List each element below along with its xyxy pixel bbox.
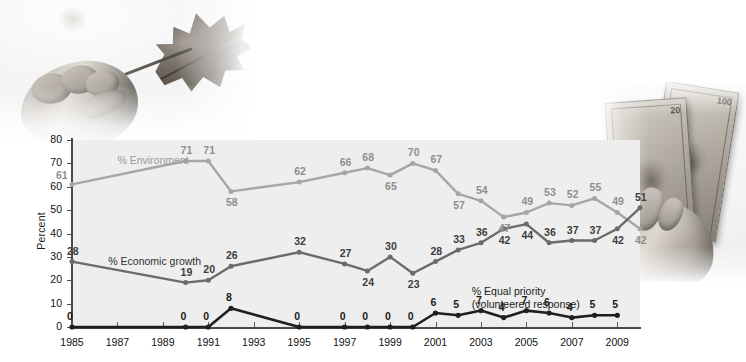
data-point-marker [592, 196, 597, 201]
data-point-label: 49 [521, 195, 533, 207]
data-point-marker [70, 182, 75, 187]
data-point-marker [479, 240, 484, 245]
data-point-label: 28 [431, 245, 443, 257]
data-point-label: 36 [544, 226, 556, 238]
data-point-label: 37 [567, 224, 579, 236]
data-point-marker [569, 203, 574, 208]
data-point-marker [524, 210, 529, 215]
data-point-marker [433, 259, 438, 264]
data-point-label: 0 [203, 310, 209, 322]
data-point-marker [410, 161, 415, 166]
data-point-marker [70, 259, 75, 264]
data-point-marker [547, 310, 552, 315]
data-point-label: 6 [431, 296, 437, 308]
data-point-label: 0 [340, 310, 346, 322]
data-point-marker [228, 306, 233, 311]
series-label-environment: % Environment [117, 154, 188, 166]
data-point-marker [479, 198, 484, 203]
data-point-label: 42 [612, 234, 624, 246]
data-point-marker [615, 210, 620, 215]
data-point-marker [501, 215, 506, 220]
series-label-equal-priority: % Equal priority (volunteered response) [472, 285, 580, 311]
data-point-marker [365, 268, 370, 273]
line-chart: Percent 01020304050607080 19851987198919… [0, 0, 746, 362]
data-point-label: 67 [431, 153, 443, 165]
data-point-marker [365, 324, 370, 329]
data-point-label: 8 [226, 291, 232, 303]
data-point-marker [297, 250, 302, 255]
series-label-economic-growth: % Economic growth [108, 255, 201, 267]
data-point-label: 42 [499, 234, 511, 246]
series-lines [0, 0, 746, 362]
data-point-marker [206, 159, 211, 164]
data-point-marker [615, 226, 620, 231]
data-point-label: 33 [453, 233, 465, 245]
data-point-marker [69, 324, 74, 329]
data-point-marker [524, 222, 529, 227]
series-label-equal-priority-line2: (volunteered response) [472, 298, 580, 311]
data-point-label: 51 [635, 191, 647, 203]
data-point-marker [547, 240, 552, 245]
data-point-label: 0 [362, 310, 368, 322]
data-point-label: 0 [181, 310, 187, 322]
data-point-marker [547, 201, 552, 206]
data-point-marker [206, 324, 211, 329]
data-point-marker [410, 271, 415, 276]
data-point-label: 0 [67, 310, 73, 322]
data-point-label: 66 [340, 156, 352, 168]
data-point-marker [501, 315, 506, 320]
data-point-label: 0 [408, 310, 414, 322]
data-point-label: 24 [362, 276, 374, 288]
data-point-label: 20 [203, 263, 215, 275]
data-point-label: 30 [385, 240, 397, 252]
data-point-label: 27 [340, 247, 352, 259]
data-point-marker [365, 166, 370, 171]
data-point-marker [569, 315, 574, 320]
data-point-label: 53 [544, 186, 556, 198]
data-point-marker [342, 170, 347, 175]
data-point-marker [615, 313, 620, 318]
data-point-label: 26 [226, 249, 238, 261]
data-point-label: 5 [612, 298, 618, 310]
data-point-label: 5 [590, 298, 596, 310]
data-point-label: 44 [521, 229, 533, 241]
data-point-label: 32 [294, 235, 306, 247]
data-point-marker [592, 313, 597, 318]
data-point-marker [388, 254, 393, 259]
series-label-equal-priority-line1: % Equal priority [472, 285, 580, 298]
data-point-label: 19 [181, 266, 193, 278]
data-point-marker [342, 261, 347, 266]
data-point-marker [342, 324, 347, 329]
series-line-eco [72, 208, 640, 283]
data-point-label: 71 [203, 144, 215, 156]
data-point-label: 47 [499, 222, 511, 234]
data-point-marker [183, 324, 188, 329]
data-point-marker [456, 313, 461, 318]
data-point-marker [433, 310, 438, 315]
data-point-marker [297, 324, 302, 329]
data-point-label: 5 [453, 298, 459, 310]
data-point-marker [388, 324, 393, 329]
data-point-marker [638, 226, 643, 231]
data-point-marker [569, 238, 574, 243]
data-point-label: 58 [226, 196, 238, 208]
data-point-label: 36 [476, 226, 488, 238]
data-point-label: 0 [294, 310, 300, 322]
data-point-label: 70 [408, 146, 420, 158]
data-point-label: 65 [385, 180, 397, 192]
data-point-marker [456, 191, 461, 196]
data-point-marker [229, 189, 234, 194]
data-point-label: 61 [56, 169, 68, 181]
data-point-label: 28 [67, 245, 79, 257]
data-point-label: 54 [476, 184, 488, 196]
data-point-marker [183, 280, 188, 285]
data-point-label: 37 [590, 224, 602, 236]
data-point-marker [410, 324, 415, 329]
data-point-label: 0 [385, 310, 391, 322]
data-point-label: 68 [362, 151, 374, 163]
data-point-label: 42 [635, 234, 647, 246]
data-point-label: 55 [590, 181, 602, 193]
data-point-label: 62 [294, 165, 306, 177]
data-point-label: 23 [408, 278, 420, 290]
data-point-marker [229, 264, 234, 269]
